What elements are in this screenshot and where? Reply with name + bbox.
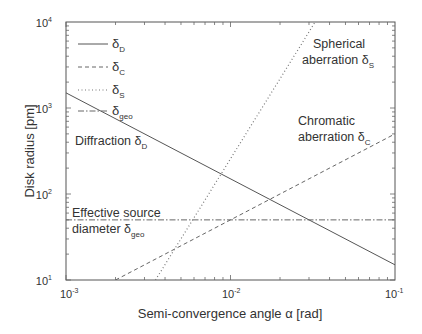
annotation-geo-line2: diameter δgeo bbox=[72, 222, 145, 239]
x-axis-label: Semi-convergence angle α [rad] bbox=[138, 306, 323, 321]
x-tick-label-1e-1: 10-1 bbox=[385, 287, 404, 300]
y-tick-label-1e3: 103 bbox=[36, 102, 52, 115]
series-spherical-line bbox=[155, 22, 315, 280]
legend-label-chromatic: δC bbox=[112, 59, 125, 77]
y-tick-label-1e2: 102 bbox=[36, 188, 52, 201]
x-tick-label-1e-2: 10-2 bbox=[222, 287, 241, 300]
y-tick-label-1e1: 101 bbox=[36, 274, 52, 287]
y-axis-label: Disk radius [pm] bbox=[22, 104, 37, 197]
legend-label-diffraction: δD bbox=[112, 36, 125, 54]
annotation-chromatic-line2: aberration δC bbox=[298, 130, 371, 147]
x-tick-label-1e-3: 10-3 bbox=[60, 287, 79, 300]
annotation-spherical-line1: Spherical bbox=[313, 37, 365, 51]
legend-label-spherical: δS bbox=[112, 82, 125, 100]
y-tick-label-1e4: 104 bbox=[36, 16, 52, 29]
annotation-geo-line1: Effective source bbox=[72, 206, 161, 220]
annotation-diffraction: Diffraction δD bbox=[75, 134, 147, 151]
annotation-spherical-line2: aberration δS bbox=[302, 53, 374, 70]
chart: 104 103 102 101 10-3 10-2 10-1 Semi-conv… bbox=[0, 0, 422, 334]
legend: δD δC δS δgeo bbox=[78, 36, 133, 121]
annotation-chromatic-line1: Chromatic bbox=[298, 114, 355, 128]
